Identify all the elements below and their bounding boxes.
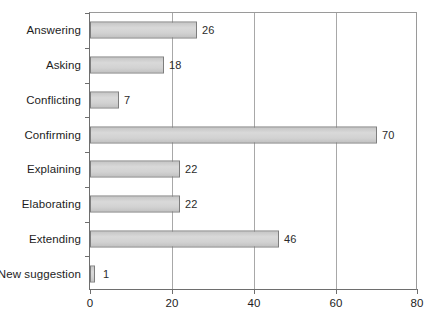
x-axis-label: 0	[87, 297, 93, 309]
bar-value-label: 22	[185, 198, 198, 210]
x-tick	[254, 289, 255, 294]
bar-chart: Answering 26 Asking 18 Conflicting 7 Con…	[0, 0, 435, 323]
bar[interactable]	[90, 126, 377, 143]
bar[interactable]	[90, 196, 180, 213]
bar[interactable]	[90, 161, 180, 178]
bar-value-label: 26	[202, 24, 215, 36]
bar-row: Answering 26	[90, 13, 416, 48]
bar-row: Extending 46	[90, 222, 416, 257]
category-label: New suggestion	[0, 268, 81, 280]
category-label: Explaining	[27, 163, 81, 175]
bar[interactable]	[90, 230, 279, 247]
x-tick	[417, 289, 418, 294]
bar[interactable]	[90, 265, 95, 282]
category-label: Conflicting	[26, 94, 81, 106]
y-tick	[85, 48, 90, 49]
bar-value-label: 1	[103, 268, 109, 280]
x-tick	[172, 289, 173, 294]
x-axis-label: 40	[248, 297, 261, 309]
bar[interactable]	[90, 22, 197, 39]
plot-area: Answering 26 Asking 18 Conflicting 7 Con…	[89, 12, 417, 290]
category-label: Elaborating	[22, 198, 81, 210]
bar-value-label: 70	[382, 129, 395, 141]
x-axis-label: 20	[166, 297, 179, 309]
y-tick	[85, 222, 90, 223]
x-tick	[90, 289, 91, 294]
bar-row: Asking 18	[90, 48, 416, 83]
y-tick	[85, 256, 90, 257]
bar[interactable]	[90, 91, 119, 108]
bar-value-label: 18	[169, 59, 182, 71]
y-tick	[85, 117, 90, 118]
y-tick	[85, 187, 90, 188]
y-tick	[85, 152, 90, 153]
category-label: Asking	[46, 59, 81, 71]
bar-row: Elaborating 22	[90, 187, 416, 222]
y-tick	[85, 13, 90, 14]
x-axis-label: 80	[411, 297, 424, 309]
bar-value-label: 22	[185, 163, 198, 175]
y-tick	[85, 83, 90, 84]
x-axis-label: 60	[330, 297, 343, 309]
x-tick	[336, 289, 337, 294]
category-label: Answering	[26, 24, 81, 36]
bar-row: Conflicting 7	[90, 83, 416, 118]
category-label: Confirming	[24, 129, 81, 141]
bar-value-label: 46	[284, 233, 297, 245]
bar-value-label: 7	[124, 94, 130, 106]
bar[interactable]	[90, 57, 164, 74]
category-label: Extending	[29, 233, 81, 245]
bar-row: New suggestion 1	[90, 256, 416, 291]
bar-row: Confirming 70	[90, 117, 416, 152]
bar-row: Explaining 22	[90, 152, 416, 187]
